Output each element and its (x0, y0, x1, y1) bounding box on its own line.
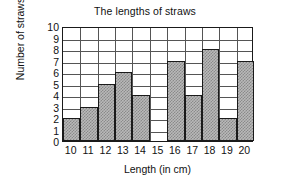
plot-inner (63, 28, 252, 141)
x-tick-15: 15 (149, 145, 166, 156)
y-axis-label: Number of straws (13, 0, 27, 99)
bar-11 (80, 107, 97, 142)
bar-19 (219, 118, 236, 141)
x-tick-17: 17 (184, 145, 201, 156)
y-tick-1: 1 (39, 126, 59, 136)
bar-10 (63, 118, 80, 141)
y-tick-8: 8 (39, 45, 59, 55)
bar-13 (115, 72, 132, 141)
bar-18 (202, 49, 219, 141)
bar-14 (132, 95, 149, 141)
bar-17 (185, 95, 202, 141)
x-tick-16: 16 (166, 145, 183, 156)
x-tick-19: 19 (218, 145, 235, 156)
gridline-horizontal (63, 97, 252, 98)
x-tick-18: 18 (201, 145, 218, 156)
histogram-figure: The lengths of straws Number of straws 0… (0, 0, 290, 184)
x-tick-11: 11 (79, 145, 96, 156)
x-tick-14: 14 (131, 145, 148, 156)
x-tick-10: 10 (62, 145, 79, 156)
x-axis-label: Length (in cm) (62, 163, 253, 175)
gridline-horizontal (63, 63, 252, 64)
y-tick-9: 9 (39, 34, 59, 44)
x-tick-12: 12 (97, 145, 114, 156)
y-tick-2: 2 (39, 114, 59, 124)
plot-area (62, 27, 253, 142)
gridline-horizontal (63, 74, 252, 75)
gridline-horizontal (63, 51, 252, 52)
gridline-horizontal (63, 40, 252, 41)
x-tick-20: 20 (236, 145, 253, 156)
gridline-vertical (150, 28, 151, 141)
chart-title: The lengths of straws (0, 5, 290, 17)
y-tick-4: 4 (39, 91, 59, 101)
y-tick-10: 10 (39, 22, 59, 32)
y-tick-6: 6 (39, 68, 59, 78)
y-tick-7: 7 (39, 57, 59, 67)
bar-16 (167, 61, 184, 142)
bar-12 (98, 84, 115, 142)
y-tick-5: 5 (39, 80, 59, 90)
gridline-horizontal (63, 86, 252, 87)
y-tick-3: 3 (39, 103, 59, 113)
y-tick-0: 0 (39, 137, 59, 147)
x-tick-13: 13 (114, 145, 131, 156)
bar-20 (237, 61, 254, 142)
